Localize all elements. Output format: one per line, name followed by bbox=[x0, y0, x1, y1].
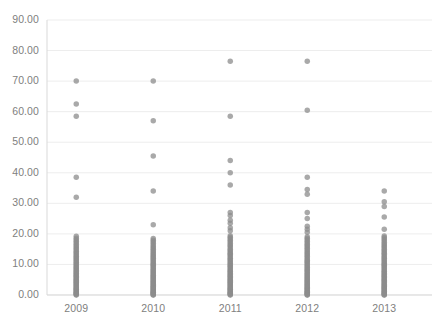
x-tick-label: 2011 bbox=[200, 302, 260, 314]
data-point bbox=[305, 59, 311, 65]
data-point bbox=[382, 188, 388, 194]
data-point bbox=[305, 210, 311, 216]
data-point bbox=[151, 188, 157, 194]
y-tick-label: 10.00 bbox=[0, 257, 39, 269]
y-tick-label: 80.00 bbox=[0, 44, 39, 56]
y-tick-label: 50.00 bbox=[0, 135, 39, 147]
y-tick-label: 90.00 bbox=[0, 13, 39, 25]
data-point bbox=[151, 222, 157, 228]
data-point bbox=[305, 191, 311, 197]
data-point bbox=[74, 194, 80, 200]
series-2013 bbox=[382, 188, 388, 297]
data-point bbox=[382, 292, 388, 298]
plot-area bbox=[0, 0, 437, 330]
series-2011 bbox=[228, 59, 234, 298]
data-point bbox=[228, 228, 234, 234]
data-point bbox=[74, 175, 80, 181]
data-point bbox=[382, 204, 388, 210]
scatter-chart: 0.0010.0020.0030.0040.0050.0060.0070.008… bbox=[0, 0, 437, 330]
data-point bbox=[228, 59, 234, 65]
axis-lines bbox=[47, 20, 432, 298]
data-point bbox=[382, 214, 388, 220]
data-points bbox=[74, 59, 388, 298]
data-point bbox=[382, 227, 388, 233]
data-point bbox=[305, 107, 311, 113]
data-point bbox=[74, 114, 80, 120]
data-point bbox=[305, 216, 311, 222]
y-tick-label: 20.00 bbox=[0, 227, 39, 239]
data-point bbox=[305, 292, 311, 298]
data-point bbox=[74, 292, 80, 298]
data-point bbox=[151, 292, 157, 298]
gridlines bbox=[47, 20, 432, 295]
data-point bbox=[228, 170, 234, 176]
data-point bbox=[151, 118, 157, 124]
series-2012 bbox=[305, 59, 311, 298]
data-point bbox=[74, 78, 80, 84]
data-point bbox=[151, 153, 157, 159]
x-tick-label: 2012 bbox=[277, 302, 337, 314]
data-point bbox=[228, 158, 234, 164]
data-point bbox=[305, 175, 311, 181]
y-tick-label: 0.00 bbox=[0, 288, 39, 300]
y-tick-label: 30.00 bbox=[0, 196, 39, 208]
data-point bbox=[74, 101, 80, 107]
y-tick-label: 70.00 bbox=[0, 74, 39, 86]
y-tick-label: 40.00 bbox=[0, 166, 39, 178]
x-tick-label: 2010 bbox=[123, 302, 183, 314]
x-tick-label: 2013 bbox=[354, 302, 414, 314]
y-tick-label: 60.00 bbox=[0, 105, 39, 117]
data-point bbox=[228, 114, 234, 120]
data-point bbox=[151, 78, 157, 84]
data-point bbox=[228, 182, 234, 188]
x-tick-label: 2009 bbox=[46, 302, 106, 314]
data-point bbox=[228, 292, 234, 298]
